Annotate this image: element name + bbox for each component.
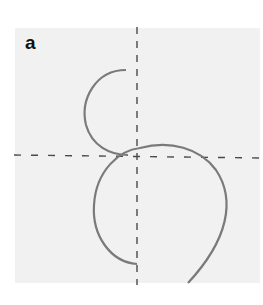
lower-loop-curve <box>94 145 227 283</box>
horizontal-axis-dashed <box>14 155 262 158</box>
upper-semicircle-curve <box>85 70 128 155</box>
figure-plot <box>0 0 263 305</box>
